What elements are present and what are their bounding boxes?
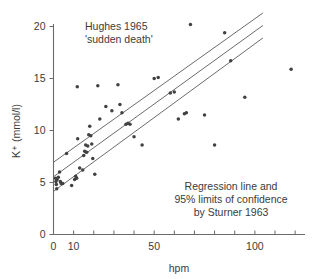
data-point: [57, 176, 61, 180]
chart-subtitle-sudden-death: 'sudden death': [85, 33, 153, 45]
data-point: [76, 137, 80, 141]
x-tick-label: 50: [148, 240, 160, 252]
y-tick-label: 0: [40, 228, 46, 240]
data-point: [90, 142, 94, 146]
y-axis-title: K⁺ (mmol/l): [10, 104, 22, 158]
data-point: [58, 170, 62, 174]
annotation-sturner: by Sturner 1963: [194, 206, 269, 218]
data-point: [132, 135, 136, 139]
data-point: [93, 172, 97, 176]
data-point: [55, 187, 59, 191]
data-point: [91, 157, 95, 161]
data-point: [110, 109, 114, 113]
data-point: [70, 184, 74, 188]
chart-title-hughes: Hughes 1965: [85, 20, 148, 32]
data-point: [81, 168, 85, 172]
data-point: [213, 143, 217, 147]
data-point: [140, 143, 144, 147]
data-point: [61, 182, 65, 186]
x-axis-title: hpm: [169, 262, 190, 274]
data-point: [156, 76, 160, 80]
y-axis-ticks: [50, 27, 54, 235]
data-point: [88, 125, 92, 129]
y-tick-label: 15: [34, 72, 46, 84]
data-point: [243, 95, 247, 99]
annotation-confidence-limits: 95% limits of confidence: [174, 193, 287, 205]
regression-line: [54, 25, 263, 176]
x-tick-label: 10: [68, 240, 80, 252]
data-point: [76, 85, 80, 89]
x-tick-label: 100: [246, 240, 264, 252]
scatter-plot: 05101520 01050100 K⁺ (mmol/l) hpm Hughes…: [0, 0, 319, 279]
data-point: [96, 84, 100, 88]
x-axis-ticks: [54, 231, 296, 235]
data-point: [86, 144, 90, 148]
data-point: [289, 67, 293, 71]
chart-figure: 05101520 01050100 K⁺ (mmol/l) hpm Hughes…: [0, 0, 319, 279]
data-point: [169, 91, 173, 95]
data-point: [118, 103, 122, 107]
y-axis-tick-labels: 05101520: [34, 20, 46, 240]
y-tick-label: 5: [40, 176, 46, 188]
data-point: [152, 77, 156, 81]
x-axis-tick-labels: 01050100: [51, 240, 264, 252]
data-point: [89, 134, 93, 138]
data-point: [82, 154, 86, 158]
data-point: [98, 117, 102, 121]
data-point: [55, 183, 59, 187]
data-point: [203, 113, 207, 117]
data-point: [78, 166, 82, 170]
data-point: [104, 105, 108, 109]
x-tick-label: 0: [51, 240, 57, 252]
y-tick-label: 20: [34, 20, 46, 32]
data-point: [65, 152, 69, 156]
data-point: [177, 117, 181, 121]
data-point: [229, 59, 233, 63]
data-point: [116, 83, 120, 87]
y-tick-label: 10: [34, 124, 46, 136]
data-point: [185, 111, 189, 115]
data-point: [75, 177, 79, 181]
annotation-regression-line: Regression line and: [185, 180, 278, 192]
data-point: [128, 123, 132, 127]
data-point: [189, 23, 193, 27]
data-point: [85, 151, 89, 155]
data-point: [120, 111, 124, 115]
data-point: [173, 90, 177, 94]
data-point: [223, 31, 227, 35]
